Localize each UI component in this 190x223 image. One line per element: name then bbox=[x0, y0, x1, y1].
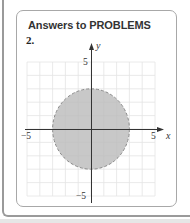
coordinate-graph: y 5 −5 5 x −5 bbox=[0, 0, 190, 223]
y-min-label: −5 bbox=[76, 191, 86, 201]
x-axis-label: x bbox=[165, 130, 171, 141]
x-max-label: 5 bbox=[151, 131, 156, 141]
y-max-label: 5 bbox=[83, 57, 88, 67]
y-axis-arrow-icon bbox=[89, 43, 94, 50]
x-min-label: −5 bbox=[21, 131, 31, 141]
y-axis-label: y bbox=[95, 40, 101, 51]
x-axis-arrow-icon bbox=[157, 127, 164, 132]
